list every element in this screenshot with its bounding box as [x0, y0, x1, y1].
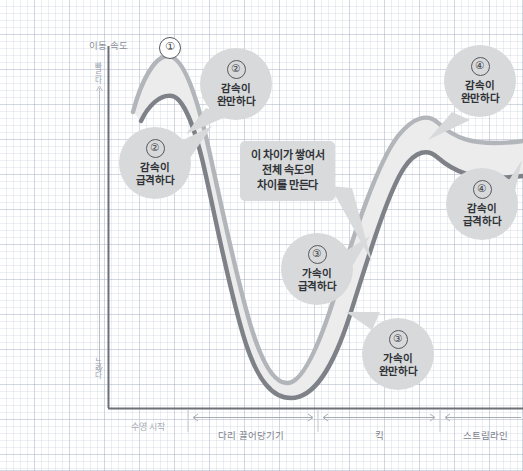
- note-line-1: 이 차이가 쌓여서: [251, 148, 324, 163]
- x-phase-label-start: 수영 시작: [110, 420, 186, 433]
- peak-marker-1: ①: [159, 37, 181, 59]
- callout-number: ③: [308, 245, 327, 264]
- callout-line-1: 가속이: [383, 352, 412, 365]
- callout-sharp-deceleration-2: ④ 감속이 급격하다: [446, 168, 518, 240]
- y-axis-tick-fast: 빠르다: [91, 62, 102, 83]
- note-line-3: 차이를 만든다: [251, 178, 324, 193]
- callout-number: ③: [389, 330, 408, 349]
- phase-brackets: [193, 414, 521, 421]
- callout-gentle-acceleration: ③ 가속이 완만하다: [362, 318, 434, 390]
- callout-number: ②: [146, 139, 165, 158]
- callout-line-2: 완만하다: [217, 95, 256, 108]
- callout-line-1: 감속이: [140, 161, 169, 174]
- callout-line-2: 급격하다: [136, 174, 175, 187]
- callout-line-1: 감속이: [465, 79, 494, 92]
- callout-gentle-deceleration-1: ② 감속이 완만하다: [200, 48, 272, 120]
- note-line-2: 전체 속도의: [251, 163, 324, 178]
- callout-line-1: 가속이: [302, 267, 331, 280]
- callout-line-2: 급격하다: [463, 215, 502, 228]
- x-phase-label-streamline: 스트림라인: [448, 428, 523, 442]
- callout-line-2: 완만하다: [461, 92, 500, 105]
- y-axis-title: 이동 속도: [89, 38, 129, 52]
- callout-sharp-deceleration-1: ② 감속이 급격하다: [119, 127, 191, 199]
- y-direction-arrow: [97, 86, 103, 372]
- callout-number: ④: [473, 180, 492, 199]
- callout-number: ④: [471, 57, 490, 76]
- x-phase-label-legpull: 다리 끌어당기기: [196, 428, 306, 442]
- x-phase-label-kick: 킥: [334, 428, 424, 442]
- callout-line-2: 급격하다: [298, 280, 337, 293]
- callout-number: ②: [227, 60, 246, 79]
- swim-speed-chart: 이동 속도 빠르다 느리다 수영 시작 다리 끌어당기기 킥 스트림라인 ① ②…: [0, 0, 523, 471]
- callout-line-1: 감속이: [221, 82, 250, 95]
- y-axis-tick-slow: 느리다: [91, 357, 102, 378]
- callout-gentle-deceleration-2: ④ 감속이 완만하다: [444, 45, 516, 117]
- callout-line-1: 감속이: [467, 202, 496, 215]
- callout-line-2: 완만하다: [379, 365, 418, 378]
- callout-sharp-acceleration: ③ 가속이 급격하다: [281, 233, 353, 305]
- accumulation-note-box: 이 차이가 쌓여서 전체 속도의 차이를 만든다: [240, 141, 335, 201]
